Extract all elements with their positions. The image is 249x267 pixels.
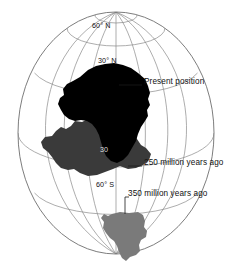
latitude-label-30n: 30° N	[98, 57, 117, 64]
annotation-present-position: Present position	[144, 78, 204, 86]
annotation-250-million-years-ago: 250 million years ago	[144, 159, 223, 167]
globe-diagram	[0, 0, 249, 267]
latitude-label-60s: 60° S	[96, 181, 114, 188]
annotation-350-million-years-ago: 350 million years ago	[128, 190, 207, 198]
latitude-label-60n: 60° N	[92, 22, 111, 29]
latitude-label-30s: 30	[100, 146, 108, 153]
continental-drift-figure: 60° N 30° N 30 60° S Present position 25…	[0, 0, 249, 267]
